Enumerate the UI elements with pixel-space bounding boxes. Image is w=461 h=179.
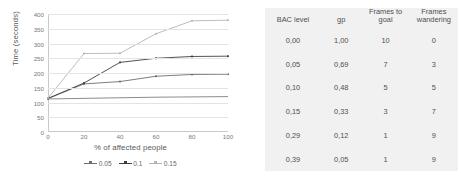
cell-bac-level: 0,05 bbox=[265, 52, 321, 76]
cell-frames-to-goal: 7 bbox=[361, 52, 409, 76]
data-point-marker bbox=[227, 55, 229, 57]
y-tick-label: 350 bbox=[34, 25, 44, 32]
table-row: 0,390,0519 bbox=[265, 147, 458, 171]
column-header-frames-to-goal: Frames togoal bbox=[361, 8, 409, 29]
legend-marker-icon bbox=[119, 161, 132, 166]
cell-gp: 0,33 bbox=[321, 100, 362, 124]
legend-label: 0.05 bbox=[99, 160, 112, 167]
gridline bbox=[48, 73, 228, 74]
y-axis-title: Time (seconds) bbox=[11, 0, 20, 79]
gridline bbox=[48, 29, 228, 30]
legend-label: 0.1 bbox=[133, 160, 142, 167]
series-line-baseline bbox=[48, 97, 228, 99]
table-body: 0,001,001000,050,69730,100,48550,150,333… bbox=[265, 29, 458, 171]
cell-frames-wandering: 0 bbox=[410, 29, 458, 53]
legend-item-0.1[interactable]: 0.1 bbox=[119, 160, 143, 167]
data-point-marker bbox=[227, 19, 229, 21]
legend-marker-icon bbox=[149, 161, 162, 166]
cell-frames-to-goal: 5 bbox=[361, 76, 409, 100]
gridline bbox=[48, 58, 228, 59]
cell-gp: 0,05 bbox=[321, 147, 362, 171]
column-header-gp: gp bbox=[321, 8, 362, 29]
table-row: 0,001,00100 bbox=[265, 29, 458, 53]
data-point-marker bbox=[83, 53, 85, 55]
gridline bbox=[48, 14, 228, 15]
legend-label: 0.15 bbox=[164, 160, 177, 167]
data-point-marker bbox=[119, 81, 121, 83]
cell-gp: 1,00 bbox=[321, 29, 362, 53]
cell-frames-to-goal: 1 bbox=[361, 124, 409, 148]
cell-frames-to-goal: 10 bbox=[361, 29, 409, 53]
figure-root: Time (seconds) 400350300250200150100500 … bbox=[0, 0, 461, 179]
cell-frames-wandering: 9 bbox=[410, 124, 458, 148]
cell-frames-wandering: 3 bbox=[410, 52, 458, 76]
data-point-marker bbox=[83, 82, 85, 84]
x-axis-ticks: 020406080100 bbox=[48, 133, 228, 143]
table-row: 0,100,4855 bbox=[265, 76, 458, 100]
x-tick-label: 100 bbox=[223, 133, 233, 140]
cell-frames-wandering: 5 bbox=[410, 76, 458, 100]
data-point-marker bbox=[155, 75, 157, 77]
legend-item-0.15[interactable]: 0.15 bbox=[149, 160, 176, 167]
data-point-marker bbox=[119, 52, 121, 54]
x-tick-label: 60 bbox=[153, 133, 160, 140]
table-header-row: BAC level gp Frames togoal Frameswanderi… bbox=[265, 8, 458, 29]
table-row: 0,150,3337 bbox=[265, 100, 458, 124]
y-tick-label: 100 bbox=[34, 99, 44, 106]
x-tick-label: 20 bbox=[81, 133, 88, 140]
cell-gp: 0,69 bbox=[321, 52, 362, 76]
table-row: 0,050,6973 bbox=[265, 52, 458, 76]
cell-bac-level: 0,00 bbox=[265, 29, 321, 53]
cell-bac-level: 0,15 bbox=[265, 100, 321, 124]
data-point-marker bbox=[47, 97, 49, 99]
cell-frames-wandering: 9 bbox=[410, 147, 458, 171]
cell-frames-wandering: 7 bbox=[410, 100, 458, 124]
data-point-marker bbox=[155, 33, 157, 35]
cell-frames-to-goal: 1 bbox=[361, 147, 409, 171]
x-tick-label: 80 bbox=[189, 133, 196, 140]
y-tick-label: 250 bbox=[34, 55, 44, 62]
legend-marker-icon bbox=[84, 161, 97, 166]
x-axis-title: % of affected people bbox=[28, 143, 233, 152]
y-axis-ticks: 400350300250200150100500 bbox=[28, 14, 46, 132]
data-table-panel: BAC level gp Frames togoal Frameswanderi… bbox=[265, 8, 458, 171]
cell-bac-level: 0,29 bbox=[265, 124, 321, 148]
x-tick-label: 40 bbox=[117, 133, 124, 140]
chart-legend: 0.050.10.15 bbox=[28, 160, 233, 167]
column-header-bac-level: BAC level bbox=[265, 8, 321, 29]
data-table: BAC level gp Frames togoal Frameswanderi… bbox=[265, 8, 458, 171]
cell-bac-level: 0,10 bbox=[265, 76, 321, 100]
cell-gp: 0,12 bbox=[321, 124, 362, 148]
y-tick-label: 400 bbox=[34, 11, 44, 18]
series-line-0.1 bbox=[48, 56, 228, 98]
column-header-frames-wandering: Frameswandering bbox=[410, 8, 458, 29]
gridline bbox=[48, 88, 228, 89]
cell-gp: 0,48 bbox=[321, 76, 362, 100]
data-point-marker bbox=[191, 56, 193, 58]
cell-bac-level: 0,39 bbox=[265, 147, 321, 171]
data-point-marker bbox=[191, 20, 193, 22]
plot-area bbox=[48, 14, 228, 132]
y-tick-label: 0 bbox=[41, 129, 44, 136]
gridline bbox=[48, 44, 228, 45]
y-tick-label: 150 bbox=[34, 84, 44, 91]
gridline bbox=[48, 103, 228, 104]
y-tick-label: 300 bbox=[34, 40, 44, 47]
plot-area-wrapper: 400350300250200150100500 bbox=[28, 14, 228, 132]
legend-item-0.05[interactable]: 0.05 bbox=[84, 160, 111, 167]
cell-frames-to-goal: 3 bbox=[361, 100, 409, 124]
gridline bbox=[48, 117, 228, 118]
table-row: 0,290,1219 bbox=[265, 124, 458, 148]
line-chart: Time (seconds) 400350300250200150100500 … bbox=[0, 0, 240, 179]
y-tick-label: 200 bbox=[34, 70, 44, 77]
x-tick-label: 0 bbox=[46, 133, 49, 140]
y-tick-label: 50 bbox=[37, 114, 44, 121]
data-point-marker bbox=[119, 61, 121, 63]
